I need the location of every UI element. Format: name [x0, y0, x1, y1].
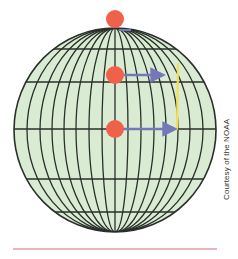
midlatitude-dot — [106, 66, 124, 84]
equator-dot — [106, 120, 124, 138]
pole-dot — [106, 10, 124, 28]
image-credit: Courtesy of the NOAA — [222, 119, 231, 200]
globe-diagram — [0, 0, 238, 259]
yellow-deflection-line — [177, 63, 178, 130]
